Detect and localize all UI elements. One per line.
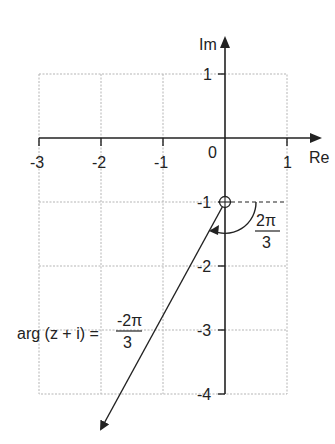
y-tick-label: -1 xyxy=(197,194,211,211)
y-tick-label: -3 xyxy=(197,322,211,339)
svg-text:-2π: -2π xyxy=(117,312,142,329)
x-tick-label: -3 xyxy=(30,154,44,171)
equation-label: arg (z + i) = -2π 3 xyxy=(17,312,142,351)
svg-text:3: 3 xyxy=(262,234,271,251)
x-tick-label: -1 xyxy=(154,154,168,171)
y-tick-label: -4 xyxy=(197,386,211,403)
argand-diagram: Im Re 0 -3 -2 -1 1 1 -1 -2 -3 -4 2π 3 ar… xyxy=(0,0,335,444)
point-minus-i-icon xyxy=(220,197,231,208)
svg-text:arg (z + i) =: arg (z + i) = xyxy=(17,325,99,342)
svg-text:3: 3 xyxy=(123,334,132,351)
imaginary-axis-arrow-icon xyxy=(220,36,230,48)
y-tick-label: 1 xyxy=(203,66,212,83)
svg-text:2π: 2π xyxy=(256,212,276,229)
angle-label: 2π 3 xyxy=(255,212,280,251)
x-tick-label: 1 xyxy=(283,154,292,171)
x-tick-label: -2 xyxy=(92,154,106,171)
real-axis-label: Re xyxy=(309,149,330,166)
x-tick-marks xyxy=(39,138,287,146)
grid xyxy=(39,74,287,394)
origin-label: 0 xyxy=(208,144,217,161)
y-tick-label: -2 xyxy=(197,258,211,275)
imaginary-axis-label: Im xyxy=(199,36,217,53)
real-axis-arrow-icon xyxy=(310,133,322,143)
